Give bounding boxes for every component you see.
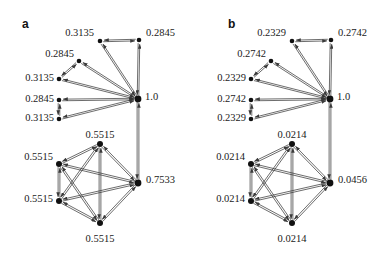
b-star-edge-5-forward: [255, 99, 327, 117]
a-star-leaf-node[interactable]: [57, 77, 62, 82]
a-clique-node[interactable]: [97, 141, 103, 147]
a-star-leaf-node[interactable]: [98, 39, 103, 44]
b-star-leaf-node[interactable]: [269, 59, 274, 64]
a-clique-edge-8-reverse: [103, 187, 136, 222]
b-star-leaf-node[interactable]: [249, 77, 254, 82]
figure-container: 1.00.31350.28450.28450.31350.28450.31350…: [0, 0, 384, 255]
panel-label-b: b: [228, 18, 235, 30]
a-clique-edge-2-forward: [61, 146, 98, 197]
b-clique-label: 0.0214: [278, 130, 307, 141]
a-star-pair-midleft-reverse: [62, 64, 77, 77]
a-clique-node[interactable]: [56, 198, 62, 204]
a-star-edge-5-forward: [63, 99, 135, 117]
a-clique-edge-7-reverse: [62, 185, 134, 201]
a-clique-edge-1-forward: [102, 147, 135, 181]
b-star-leaf-node[interactable]: [329, 38, 334, 43]
b-clique-edge-8-reverse: [295, 187, 328, 222]
a-hub-node[interactable]: [135, 96, 142, 103]
a-clique-edge-0-reverse: [62, 147, 96, 164]
a-clique-label: 0.5515: [86, 234, 115, 245]
b-clique-node[interactable]: [248, 198, 254, 204]
a-star-pair-top-forward: [103, 41, 135, 42]
a-star-leaf-label: 0.2845: [25, 94, 54, 105]
b-clique-edge-9-forward: [253, 203, 287, 222]
b-clique-edge-0-forward: [254, 145, 288, 162]
b-star-leaf-node[interactable]: [290, 39, 295, 44]
a-star-leaf-label: 0.2845: [45, 49, 74, 60]
b-clique-edge-2-forward: [253, 146, 290, 197]
b-clique-edge-7-reverse: [254, 185, 326, 201]
b-star-edge-1-forward: [331, 44, 332, 96]
a-clique-node[interactable]: [56, 161, 62, 167]
a-star-edge-1-reverse: [137, 43, 138, 95]
a-star-edge-2-forward: [83, 63, 136, 97]
b-star-leaf-label: 0.2329: [257, 28, 286, 39]
a-star-leaf-label: 0.3135: [25, 73, 54, 84]
b-hub-label: 1.0: [337, 92, 350, 103]
b-star-edge-4-reverse: [254, 100, 326, 101]
a-star-pair-midleft-forward: [62, 63, 76, 76]
a-star-edge-3-reverse: [62, 81, 134, 99]
a-star-leaf-label: 0.2845: [146, 28, 175, 39]
b-clique-label: 0.0214: [216, 152, 245, 163]
b-hub-node[interactable]: [327, 96, 334, 103]
a-clique-edge-0-forward: [62, 145, 96, 162]
b-star-leaf-label: 0.2742: [338, 28, 367, 39]
a-clique-node[interactable]: [97, 220, 103, 226]
b-star-edge-1-reverse: [329, 43, 330, 95]
a-star-leaf-label: 0.3135: [65, 28, 94, 39]
b-star-leaf-label: 0.2742: [237, 49, 266, 60]
b-clique-node[interactable]: [327, 180, 334, 187]
b-star-leaf-label: 0.2329: [217, 73, 246, 84]
a-star-edge-4-reverse: [62, 100, 134, 101]
b-clique-label: 0.0214: [216, 194, 245, 205]
a-clique-label: 0.5515: [86, 130, 115, 141]
a-star-leaf-node[interactable]: [77, 59, 82, 64]
b-star-edge-3-reverse: [254, 81, 326, 99]
b-clique-edge-9-reverse: [255, 202, 289, 221]
a-hub-label: 1.0: [145, 92, 158, 103]
a-clique-edge-2-reverse: [62, 148, 99, 199]
a-clique-node[interactable]: [135, 180, 142, 187]
b-star-pair-top-reverse: [296, 39, 328, 40]
b-star-edge-5-reverse: [254, 101, 326, 119]
graph-canvas: [0, 0, 384, 255]
b-star-edge-0-reverse: [293, 44, 327, 96]
a-star-leaf-node[interactable]: [57, 117, 62, 122]
b-clique-edge-0-reverse: [254, 147, 288, 164]
a-star-leaf-node[interactable]: [57, 98, 62, 103]
panel-label-a: a: [22, 18, 29, 30]
b-star-leaf-node[interactable]: [249, 98, 254, 103]
b-clique-node[interactable]: [248, 161, 254, 167]
a-clique-edge-8-forward: [102, 185, 135, 220]
b-clique-node[interactable]: [289, 220, 295, 226]
a-star-pair-top-reverse: [104, 39, 136, 40]
b-clique-label: 0.0456: [338, 175, 367, 186]
b-star-edge-2-forward: [275, 63, 328, 97]
b-star-leaf-node[interactable]: [249, 117, 254, 122]
a-clique-label: 0.7533: [146, 175, 175, 186]
b-star-pair-midleft-forward: [254, 63, 269, 76]
b-clique-edge-1-forward: [294, 147, 327, 181]
b-clique-label: 0.0214: [278, 234, 307, 245]
a-star-edge-5-reverse: [62, 101, 134, 119]
a-clique-label: 0.5515: [24, 194, 53, 205]
a-clique-edge-9-forward: [61, 203, 95, 222]
a-clique-label: 0.5515: [24, 152, 53, 163]
a-star-leaf-node[interactable]: [137, 38, 142, 43]
b-star-leaf-label: 0.2329: [217, 113, 246, 124]
b-clique-node[interactable]: [289, 141, 295, 147]
b-star-leaf-label: 0.2742: [217, 94, 246, 105]
b-star-edge-4-forward: [255, 98, 327, 99]
b-clique-edge-2-reverse: [254, 148, 291, 199]
a-star-edge-1-forward: [139, 44, 140, 96]
a-star-edge-3-forward: [63, 79, 135, 97]
b-star-edge-3-forward: [255, 79, 327, 97]
b-clique-edge-8-forward: [294, 185, 327, 220]
a-star-edge-0-reverse: [101, 44, 135, 96]
a-clique-edge-9-reverse: [63, 202, 97, 221]
a-star-leaf-label: 0.3135: [25, 113, 54, 124]
b-star-pair-midleft-reverse: [254, 64, 269, 77]
a-star-edge-4-forward: [63, 98, 135, 99]
b-star-pair-top-forward: [295, 41, 327, 42]
